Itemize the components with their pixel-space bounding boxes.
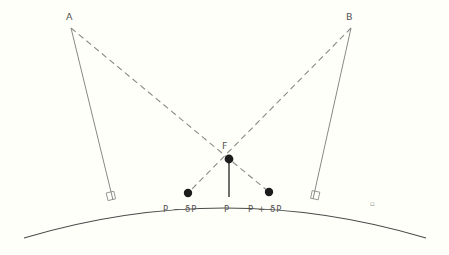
normal-line-a — [71, 28, 113, 200]
label-focus: F — [222, 141, 228, 151]
sight-line-b-to-f — [188, 28, 351, 193]
label-station-b: B — [346, 12, 353, 22]
normal-line-b — [313, 28, 351, 199]
diagram-canvas: A B F P − δP P P + δP ▫ — [0, 0, 449, 255]
focus-dot — [225, 155, 234, 164]
label-station-a: A — [66, 12, 73, 22]
right-angle-marker-b — [311, 191, 320, 200]
point-minus-dot — [184, 189, 192, 197]
sight-line-a-to-f — [71, 28, 269, 192]
label-corner-mark: ▫ — [370, 201, 375, 208]
point-plus-dot — [265, 188, 273, 196]
label-point-center: P — [224, 205, 230, 214]
label-point-plus: P + δP — [248, 205, 283, 214]
diagram-svg — [0, 0, 449, 255]
label-point-minus: P − δP — [163, 205, 198, 214]
